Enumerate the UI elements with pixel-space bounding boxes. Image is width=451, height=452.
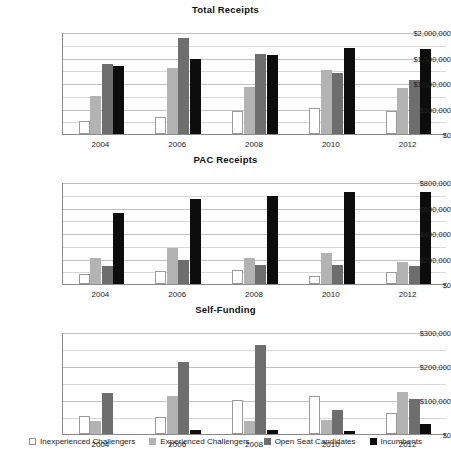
y-axis-tick-label: $0 — [393, 131, 451, 140]
legend-label: Inexperienced Challengers — [40, 437, 135, 446]
bar — [255, 345, 266, 434]
chart-legend: Inexperienced ChallengersExperienced Cha… — [0, 437, 451, 446]
bar — [178, 260, 189, 284]
bar-group-2008 — [232, 333, 278, 434]
bar — [344, 192, 355, 284]
x-axis-tick-label: 2012 — [369, 290, 446, 299]
bar-group-2010 — [309, 333, 355, 434]
chart-title-pac-receipts: PAC Receipts — [0, 150, 451, 165]
bar — [309, 108, 320, 134]
bar — [244, 258, 255, 284]
bar — [90, 96, 101, 134]
bar — [155, 117, 166, 134]
plot-frame — [62, 33, 446, 135]
bar-group-2006 — [155, 33, 201, 134]
bar — [190, 430, 201, 434]
bar — [155, 271, 166, 284]
legend-item[interactable]: Experienced Challengers — [149, 437, 249, 446]
chart-title-total-receipts: Total Receipts — [0, 0, 451, 15]
legend-swatch-icon — [264, 438, 271, 445]
y-axis-tick-label: $800,000 — [393, 179, 451, 188]
bar — [113, 66, 124, 134]
bar — [344, 48, 355, 134]
bar — [244, 421, 255, 434]
chart-page: Total Receipts $0$500,000$1,000,000$1,50… — [0, 0, 451, 452]
bar — [167, 68, 178, 134]
x-axis-tick-label: 2004 — [62, 290, 139, 299]
legend-item[interactable]: Open Seat Candidates — [264, 437, 356, 446]
plot-frame — [62, 183, 446, 285]
bar — [155, 417, 166, 434]
bar — [332, 410, 343, 434]
legend-label: Experienced Challengers — [160, 437, 249, 446]
bar — [267, 196, 278, 284]
bar — [90, 421, 101, 434]
bar — [244, 87, 255, 134]
bar — [102, 393, 113, 434]
bar-group-2004 — [79, 183, 125, 284]
chart-title-self-funding: Self-Funding — [0, 300, 451, 315]
bar — [309, 276, 320, 284]
x-axis-tick-label: 2008 — [216, 140, 293, 149]
bar — [79, 274, 90, 284]
y-axis-tick-label: $400,000 — [393, 230, 451, 239]
bar — [102, 64, 113, 134]
bar — [102, 266, 113, 284]
bar-group-2008 — [232, 183, 278, 284]
legend-label: Incumbents — [381, 437, 422, 446]
legend-swatch-icon — [29, 438, 36, 445]
bar-group-2010 — [309, 33, 355, 134]
y-axis-tick-label: $500,000 — [393, 105, 451, 114]
bar-group-2010 — [309, 183, 355, 284]
legend-item[interactable]: Incumbents — [370, 437, 422, 446]
legend-label: Open Seat Candidates — [275, 437, 356, 446]
bar — [267, 430, 278, 434]
bar — [321, 70, 332, 134]
bar — [232, 270, 243, 284]
bar-group-2006 — [155, 333, 201, 434]
y-axis-tick-label: $0 — [393, 281, 451, 290]
bar — [178, 38, 189, 134]
x-axis-tick-label: 2012 — [369, 140, 446, 149]
y-axis-tick-label: $600,000 — [393, 204, 451, 213]
y-axis-tick-label: $1,500,000 — [393, 54, 451, 63]
bar — [167, 396, 178, 434]
y-axis-tick-label: $200,000 — [393, 255, 451, 264]
y-axis-tick-label: $200,000 — [393, 363, 451, 372]
x-axis-tick-label: 2010 — [292, 290, 369, 299]
x-axis-tick-label: 2006 — [139, 140, 216, 149]
bar — [178, 362, 189, 434]
panel-pac-receipts: PAC Receipts $0$200,000$400,000$600,000$… — [0, 150, 451, 300]
bar — [255, 265, 266, 284]
y-axis-tick-label: $300,000 — [393, 329, 451, 338]
x-axis-tick-label: 2004 — [62, 140, 139, 149]
bar — [90, 258, 101, 284]
bar-group-2004 — [79, 33, 125, 134]
legend-swatch-icon — [370, 438, 377, 445]
bar — [167, 248, 178, 284]
bar — [321, 420, 332, 434]
x-axis-tick-label: 2008 — [216, 290, 293, 299]
y-axis-tick-label: $100,000 — [393, 397, 451, 406]
y-axis-tick-label: $2,000,000 — [393, 29, 451, 38]
bar-group-2004 — [79, 333, 125, 434]
bar — [267, 55, 278, 134]
x-axis-tick-label: 2010 — [292, 140, 369, 149]
x-axis-tick-label: 2006 — [139, 290, 216, 299]
bar — [190, 59, 201, 134]
bar — [232, 111, 243, 134]
bar — [79, 416, 90, 434]
bar — [344, 431, 355, 434]
legend-item[interactable]: Inexperienced Challengers — [29, 437, 135, 446]
panel-total-receipts: Total Receipts $0$500,000$1,000,000$1,50… — [0, 0, 451, 150]
bar — [332, 73, 343, 134]
bar-group-2012 — [386, 333, 432, 434]
bar-group-2008 — [232, 33, 278, 134]
bar — [232, 400, 243, 434]
legend-swatch-icon — [149, 438, 156, 445]
bar-group-2006 — [155, 183, 201, 284]
bar — [113, 213, 124, 284]
panel-self-funding: Self-Funding $0$100,000$200,000$300,0002… — [0, 300, 451, 450]
bar — [309, 396, 320, 434]
bar — [255, 54, 266, 134]
